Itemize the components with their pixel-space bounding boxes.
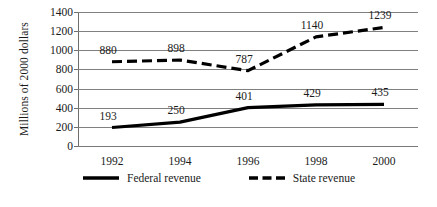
data-label: 898: [167, 42, 184, 54]
x-axis-tick-label: 1998: [305, 155, 328, 167]
y-axis-tick-label: 200: [27, 121, 73, 133]
y-axis-tick-label: 1000: [27, 44, 73, 56]
data-label: 193: [99, 110, 116, 122]
y-axis-tick-label: 400: [27, 102, 73, 114]
series-line-federal-revenue: [112, 104, 384, 127]
data-label: 401: [235, 90, 252, 102]
legend-item-federal-revenue: Federal revenue: [82, 172, 201, 184]
y-axis-tick-mark: [74, 146, 78, 147]
chart-legend: Federal revenue State revenue: [0, 172, 437, 184]
data-label: 435: [371, 86, 388, 98]
y-axis-tick-label: 1400: [27, 6, 73, 18]
legend-item-state-revenue: State revenue: [248, 172, 355, 184]
legend-label-federal-revenue: Federal revenue: [127, 172, 201, 184]
series-lines: [78, 12, 418, 146]
x-axis-tick-label: 1994: [169, 155, 192, 167]
data-label: 1239: [369, 9, 392, 21]
data-label: 787: [235, 53, 252, 65]
y-axis-tick-label: 600: [27, 83, 73, 95]
x-axis-tick-label: 2000: [373, 155, 396, 167]
data-label: 880: [99, 44, 116, 56]
x-axis-tick-label: 1996: [237, 155, 260, 167]
y-axis-tick-label: 800: [27, 63, 73, 75]
legend-label-state-revenue: State revenue: [293, 172, 355, 184]
gridline: [78, 146, 418, 147]
x-axis-tick-label: 1992: [101, 155, 124, 167]
data-label: 250: [167, 104, 184, 116]
y-axis-tick-label: 0: [27, 140, 73, 152]
line-chart: Millions of 2000 dollars 020040060080010…: [0, 0, 437, 207]
y-axis-tick-label: 1200: [27, 25, 73, 37]
plot-area: 0200400600800100012001400 19921994199619…: [78, 12, 418, 146]
data-label: 1140: [301, 19, 324, 31]
legend-solid-line-icon: [82, 173, 120, 183]
legend-dashed-line-icon: [248, 173, 286, 183]
data-label: 429: [303, 87, 320, 99]
